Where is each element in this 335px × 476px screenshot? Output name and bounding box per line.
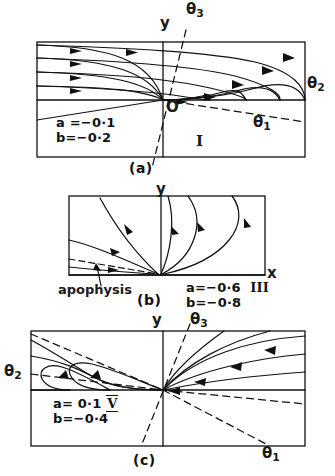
panel-b-param-a-text: a=−0·6 <box>186 280 241 295</box>
panel-b: y x apophysis a=−0·6 III b=−0·8 (b) <box>0 182 335 312</box>
panel-a-y-axis-label: y <box>160 16 170 32</box>
panel-b-apophysis-label: apophysis <box>58 283 132 297</box>
panel-c-param-a: a= 0·1 V <box>53 396 118 411</box>
panel-a-theta3-label: θ3 <box>186 2 204 19</box>
panel-b-param-a: a=−0·6 III <box>186 280 269 295</box>
panel-a-theta1-label: θ1 <box>253 115 271 132</box>
panel-a-region-numeral: I <box>196 134 203 150</box>
panel-a-origin-label: O <box>166 100 179 116</box>
panel-c-region-numeral: V <box>106 395 118 412</box>
panel-c-theta1-extension <box>163 390 305 404</box>
streamline <box>163 372 305 390</box>
streamline <box>163 88 280 100</box>
panel-b-region-numeral: III <box>250 280 269 295</box>
streamline-arrowheads <box>108 218 251 273</box>
panel-c-y-axis-label: y <box>152 313 162 329</box>
panel-b-caption: (b) <box>137 292 161 308</box>
panel-c-param-b: b=−0·4 <box>53 411 118 426</box>
streamline <box>164 196 239 274</box>
panel-a-params: a =−0·1 b=−0·2 <box>56 115 116 146</box>
panel-c-theta3-label: θ3 <box>190 312 208 329</box>
panel-a-param-a: a =−0·1 <box>56 115 116 130</box>
panel-b-frame <box>69 196 265 275</box>
panel-c-plot <box>0 312 335 476</box>
panel-c-param-a-text: a= 0·1 <box>53 396 101 411</box>
panel-a-theta1-separatrix <box>163 100 305 122</box>
panel-a-param-b: b=−0·2 <box>56 130 116 145</box>
panel-a: y θ3 θ2 θ1 O I a =−0·1 b=−0·2 (a) <box>0 0 335 180</box>
panel-b-plot <box>0 182 335 312</box>
panel-b-params: a=−0·6 III b=−0·8 <box>186 280 269 311</box>
streamline <box>162 196 197 274</box>
streamline <box>161 196 172 274</box>
panel-c-theta1-label: θ1 <box>262 446 280 463</box>
panel-c: y θ3 θ2 θ1 a= 0·1 V b=−0·4 (c) <box>0 312 335 476</box>
streamline <box>37 86 210 100</box>
panel-b-y-axis-label: y <box>156 182 166 198</box>
figure-root: y θ3 θ2 θ1 O I a =−0·1 b=−0·2 (a) <box>0 0 335 476</box>
panel-c-params: a= 0·1 V b=−0·4 <box>53 396 118 427</box>
streamline <box>100 198 158 274</box>
panel-b-param-b: b=−0·8 <box>186 295 269 310</box>
panel-a-caption: (a) <box>129 160 153 176</box>
panel-c-caption: (c) <box>133 452 156 468</box>
panel-c-theta2-label: θ2 <box>4 364 22 381</box>
panel-a-theta2-label: θ2 <box>307 76 325 93</box>
